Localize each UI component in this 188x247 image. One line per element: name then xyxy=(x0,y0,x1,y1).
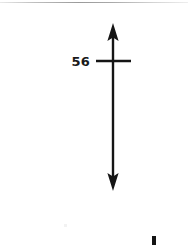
tick-label-56: 56 xyxy=(72,54,91,69)
corner-crop-mark xyxy=(152,236,156,245)
figure-canvas: 56 xyxy=(0,0,188,247)
axis-diagram-svg: 56 xyxy=(0,0,188,247)
background-speck xyxy=(64,224,67,227)
